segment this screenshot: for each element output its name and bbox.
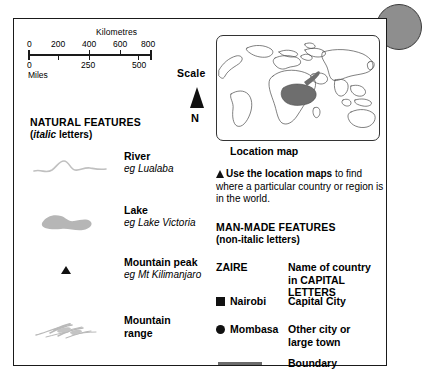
scale-rule-graphic bbox=[28, 50, 168, 59]
legend-eg-mountain-peak: eg Mt Kilimanjaro bbox=[124, 269, 216, 282]
manmade-features-heading: MAN-MADE FEATURES bbox=[216, 221, 336, 233]
manmade-key-mombasa: Mombasa bbox=[230, 323, 288, 335]
scale-km-tick-200: 200 bbox=[51, 39, 65, 50]
world-map-graphic bbox=[217, 36, 379, 140]
natural-features-heading: NATURAL FEATURES bbox=[30, 116, 141, 128]
legend-row-mountain-peak: Mountain peak eg Mt Kilimanjaro bbox=[28, 255, 208, 295]
manmade-desc-other-city: Other city or large town bbox=[288, 323, 392, 348]
river-symbol bbox=[28, 149, 114, 185]
manmade-desc-other-city-line2: large town bbox=[288, 336, 392, 349]
legend-row-lake: Lake eg Lake Victoria bbox=[28, 203, 208, 243]
legend-title-mountain-peak: Mountain peak bbox=[124, 256, 216, 269]
lake-symbol bbox=[28, 203, 114, 239]
location-map bbox=[216, 35, 380, 141]
manmade-desc-country: Name of country in CAPITAL LETTERS bbox=[288, 261, 392, 299]
manmade-features-subheading: (non-italic letters) bbox=[216, 234, 300, 245]
legend-text-mountain-range: Mountain range bbox=[124, 314, 216, 339]
italic-word: italic bbox=[33, 129, 56, 140]
north-letter-label: N bbox=[191, 112, 199, 124]
scale-km-tick-400: 400 bbox=[82, 39, 96, 50]
paren-rest: letters) bbox=[56, 129, 92, 140]
boundary-line-icon bbox=[218, 362, 262, 365]
natural-features-subheading: (italic letters) bbox=[30, 129, 92, 140]
scale-bar: Kilometres 0 200 400 600 800 0 250 bbox=[28, 39, 168, 71]
location-map-callout-note: Use the location maps to find where a pa… bbox=[216, 168, 388, 206]
manmade-key-nairobi: Nairobi bbox=[230, 295, 288, 307]
scale-mi-tick-250: 250 bbox=[81, 60, 95, 71]
manmade-desc-capital-line1: Capital City bbox=[288, 295, 392, 308]
scale-word-label: Scale bbox=[177, 67, 205, 79]
river-squiggle-icon bbox=[28, 149, 114, 185]
manmade-desc-boundary: Boundary bbox=[288, 357, 392, 370]
scale-miles-label: Miles bbox=[28, 70, 48, 80]
map-key-panel: Kilometres 0 200 400 600 800 0 250 bbox=[13, 18, 387, 366]
natural-features-column: Kilometres 0 200 400 600 800 0 250 bbox=[22, 23, 210, 363]
manmade-desc-boundary-line1: Boundary bbox=[288, 357, 392, 370]
legend-title-lake: Lake bbox=[124, 204, 216, 217]
scale-kilometres-label: Kilometres bbox=[96, 27, 137, 37]
legend-text-river: River eg Lualaba bbox=[124, 150, 216, 175]
north-arrow-icon bbox=[190, 87, 204, 108]
mountain-peak-triangle-icon bbox=[61, 266, 71, 274]
scale-cap-start bbox=[28, 50, 30, 60]
manmade-desc-country-line1: Name of country bbox=[288, 261, 392, 274]
legend-row-river: River eg Lualaba bbox=[28, 149, 208, 189]
highlighted-region bbox=[281, 84, 316, 105]
legend-title-mountain-range-line2: range bbox=[124, 327, 216, 340]
scale-km-tick-600: 600 bbox=[113, 39, 127, 50]
manmade-desc-capital-city: Capital City bbox=[288, 295, 392, 308]
lake-blob-icon bbox=[28, 203, 114, 239]
legend-title-river: River bbox=[124, 150, 216, 163]
callout-triangle-icon bbox=[216, 170, 224, 178]
scale-miles-ticks: 0 250 500 bbox=[28, 60, 168, 71]
scale-cap-end bbox=[150, 50, 152, 60]
scale-mi-tick-500: 500 bbox=[132, 60, 146, 71]
legend-eg-lake: eg Lake Victoria bbox=[124, 217, 216, 230]
legend-text-lake: Lake eg Lake Victoria bbox=[124, 204, 216, 229]
scale-tick-600 bbox=[120, 50, 121, 55]
location-map-caption: Location map bbox=[230, 145, 298, 157]
scale-km-tick-800: 800 bbox=[141, 39, 155, 50]
mountain-peak-symbol bbox=[28, 255, 114, 291]
manmade-desc-other-city-line1: Other city or bbox=[288, 323, 392, 336]
manmade-key-zaire: ZAIRE bbox=[216, 261, 288, 273]
location-and-manmade-column: Location map Use the location maps to fi… bbox=[210, 23, 386, 363]
callout-bold-text: Use the location maps bbox=[226, 168, 332, 179]
mountain-range-symbol bbox=[28, 313, 114, 349]
scale-km-tick-0: 0 bbox=[27, 39, 32, 50]
legend-row-mountain-range: Mountain range bbox=[28, 313, 208, 353]
scale-km-ticks: 0 200 400 600 800 bbox=[28, 39, 168, 50]
legend-text-mountain-peak: Mountain peak eg Mt Kilimanjaro bbox=[124, 256, 216, 281]
legend-eg-river: eg Lualaba bbox=[124, 163, 216, 176]
capital-city-square-icon bbox=[216, 297, 225, 306]
mountain-range-hachure-icon bbox=[28, 313, 114, 349]
legend-title-mountain-range-line1: Mountain bbox=[124, 314, 216, 327]
other-city-circle-icon bbox=[216, 325, 225, 334]
